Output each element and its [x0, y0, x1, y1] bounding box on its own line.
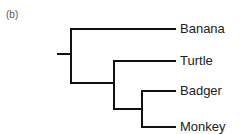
- leaf-label-banana: Banana: [180, 22, 225, 36]
- leaf-label-monkey: Monkey: [180, 120, 226, 134]
- leaf-label-turtle: Turtle: [180, 54, 213, 68]
- leaf-label-badger: Badger: [180, 84, 222, 98]
